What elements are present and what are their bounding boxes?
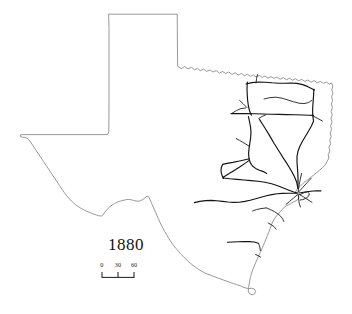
texas-railroad-map-figure <box>0 0 352 314</box>
year-label: 1880 <box>98 236 154 253</box>
scale-tick-label-0: 0 <box>100 262 103 268</box>
scale-tick-label-60: 60 <box>131 262 137 268</box>
scale-tick-label-30: 30 <box>115 262 121 268</box>
scale-rule <box>92 271 162 283</box>
scale-bar: 03060 <box>92 262 162 286</box>
map-canvas <box>0 0 352 314</box>
scale-rule-path <box>102 272 134 278</box>
